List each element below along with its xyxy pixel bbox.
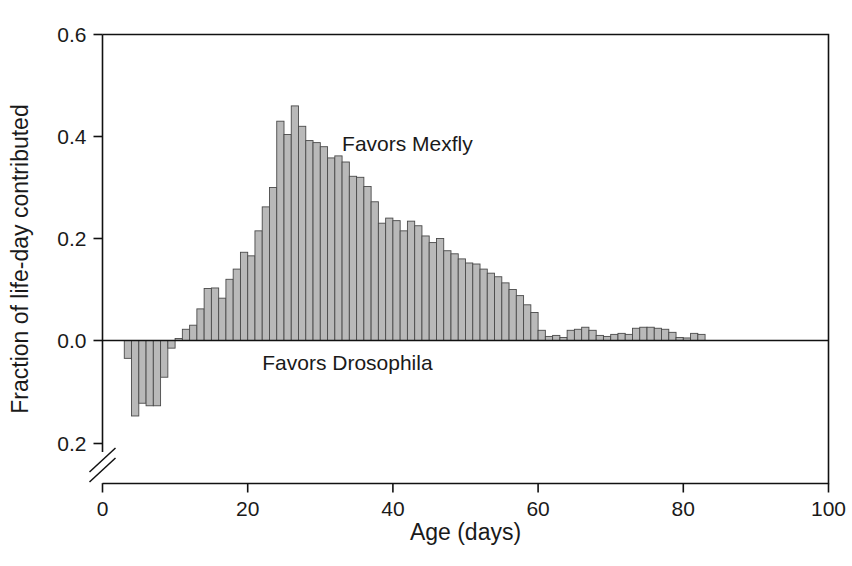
bar xyxy=(473,264,480,341)
bar xyxy=(487,273,494,340)
bar xyxy=(182,329,189,340)
annotation-favors-mexfly: Favors Mexfly xyxy=(342,132,473,155)
bar xyxy=(153,341,160,406)
bar xyxy=(429,243,436,341)
y-tick-label: 0.2 xyxy=(57,432,86,455)
bar xyxy=(132,341,139,416)
bar xyxy=(146,341,153,406)
bar xyxy=(509,290,516,341)
bar xyxy=(248,256,255,341)
y-tick-label: 0.6 xyxy=(57,23,86,46)
bar xyxy=(240,252,247,340)
bar xyxy=(320,147,327,341)
bar xyxy=(466,263,473,341)
bar xyxy=(618,333,625,340)
bar xyxy=(698,334,705,340)
bar xyxy=(291,106,298,341)
bar xyxy=(422,236,429,341)
bar xyxy=(226,279,233,340)
bar xyxy=(582,327,589,340)
bar xyxy=(531,312,538,340)
bar xyxy=(640,327,647,340)
bar xyxy=(524,305,531,341)
bar xyxy=(364,186,371,340)
x-tick-label: 40 xyxy=(381,497,404,520)
bar xyxy=(662,329,669,340)
y-tick-label: 0.4 xyxy=(57,125,87,148)
bar xyxy=(654,328,661,340)
bar xyxy=(625,334,632,340)
bar xyxy=(495,277,502,341)
bar xyxy=(458,259,465,341)
bar xyxy=(691,333,698,340)
bar xyxy=(313,143,320,341)
bar xyxy=(415,226,422,341)
bar xyxy=(211,288,218,341)
bar xyxy=(262,207,269,341)
bar xyxy=(647,327,654,340)
bar xyxy=(197,309,204,341)
x-axis-title: Age (days) xyxy=(410,519,521,545)
bar xyxy=(567,330,574,340)
bar xyxy=(502,283,509,341)
x-tick-label: 0 xyxy=(97,497,109,520)
bar xyxy=(451,254,458,341)
y-tick-label: 0.2 xyxy=(57,227,86,250)
bar xyxy=(516,296,523,341)
axis-break-slash-2 xyxy=(90,458,116,482)
bar xyxy=(407,221,414,340)
bar xyxy=(436,239,443,341)
bar xyxy=(284,134,291,340)
bar xyxy=(386,218,393,340)
bar xyxy=(299,126,306,340)
y-tick-label: 0.0 xyxy=(57,329,86,352)
bar-chart: 0.60.40.20.00.2020406080100Age (days)Fra… xyxy=(0,0,852,566)
bar xyxy=(139,341,146,404)
bar xyxy=(204,288,211,340)
bar xyxy=(596,335,603,340)
bar xyxy=(161,341,168,378)
bar xyxy=(168,341,175,349)
bar xyxy=(306,141,313,341)
bar xyxy=(611,334,618,340)
bar xyxy=(632,328,639,340)
bar xyxy=(219,298,226,340)
bar xyxy=(669,332,676,340)
bar xyxy=(400,231,407,341)
bar xyxy=(349,176,356,340)
bar xyxy=(444,251,451,341)
y-axis-title: Fraction of life-day contributed xyxy=(7,104,33,413)
bar xyxy=(255,231,262,341)
x-tick-label: 60 xyxy=(526,497,549,520)
bar xyxy=(480,269,487,340)
bar xyxy=(124,341,131,359)
bar xyxy=(269,188,276,341)
x-tick-label: 80 xyxy=(672,497,695,520)
bar xyxy=(233,269,240,340)
bar xyxy=(371,202,378,341)
bar xyxy=(538,330,545,340)
bar xyxy=(589,330,596,340)
bar xyxy=(277,121,284,340)
bar xyxy=(553,335,560,340)
bar xyxy=(393,221,400,341)
x-tick-label: 20 xyxy=(236,497,259,520)
bar xyxy=(574,329,581,340)
figure-root: 0.60.40.20.00.2020406080100Age (days)Fra… xyxy=(0,0,852,566)
annotation-favors-drosophila: Favors Drosophila xyxy=(262,351,433,374)
bar xyxy=(378,223,385,340)
bar xyxy=(190,325,197,340)
bar xyxy=(357,177,364,340)
bar xyxy=(335,156,342,341)
bar xyxy=(342,162,349,341)
bar xyxy=(328,158,335,341)
x-tick-label: 100 xyxy=(811,497,846,520)
